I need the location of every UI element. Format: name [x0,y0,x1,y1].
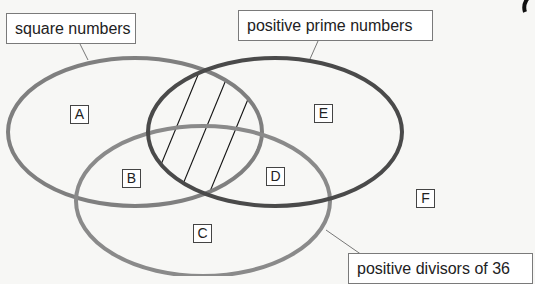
region-a-label: A [70,105,89,124]
divisors-of-36-label: positive divisors of 36 [348,253,533,284]
square-leader-line [80,44,88,60]
prime-numbers-label: positive prime numbers [238,10,433,41]
divisors-of-36-set [76,126,330,276]
region-d-label: D [266,167,285,186]
divisors-leader-line [326,230,362,255]
prime-leader-line [310,41,318,59]
region-e-label: E [314,104,333,123]
region-c-label: C [193,224,212,243]
region-f-label: F [416,189,435,208]
hatched-region [100,70,320,240]
corner-mark-icon [524,0,535,12]
region-b-label: B [122,169,141,188]
square-numbers-label: square numbers [6,13,136,44]
